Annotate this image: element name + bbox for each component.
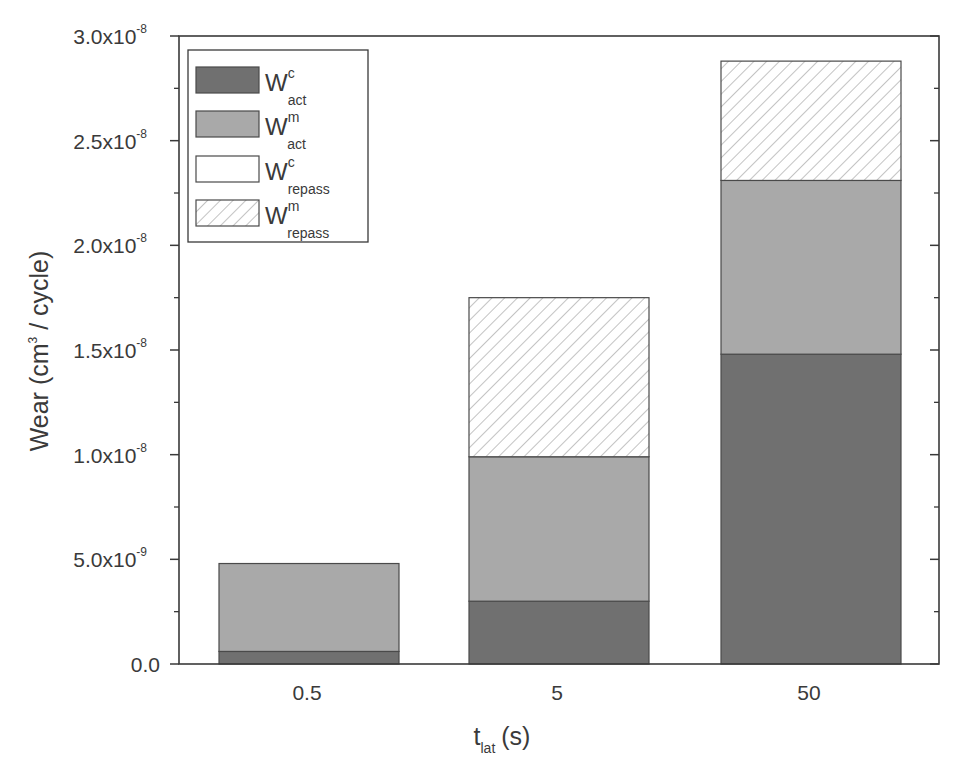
bar-segment-0_5-series-1 bbox=[219, 564, 399, 652]
y-tick-label: 1.5x10-8 bbox=[73, 336, 147, 362]
x-axis-ticks: 0.5550 bbox=[292, 681, 820, 704]
bar-segment-50-series-0 bbox=[721, 354, 901, 664]
stacked-bar-chart: 0.05.0x10-91.0x10-81.5x10-82.0x10-82.5x1… bbox=[0, 0, 973, 775]
y-tick-label: 2.0x10-8 bbox=[73, 231, 147, 257]
x-tick-label: 0.5 bbox=[292, 681, 321, 704]
x-tick-label: 50 bbox=[797, 681, 820, 704]
bar-segment-50-series-3 bbox=[721, 61, 901, 180]
y-axis-title: Wear (cm3 / cycle) bbox=[25, 251, 53, 452]
x-tick-label: 5 bbox=[551, 681, 563, 704]
y-tick-label: 1.0x10-8 bbox=[73, 441, 147, 467]
legend-swatch-0 bbox=[196, 67, 259, 93]
y-tick-label: 5.0x10-9 bbox=[73, 545, 147, 571]
legend-swatch-3 bbox=[196, 200, 259, 226]
bar-segment-50-series-1 bbox=[721, 180, 901, 354]
legend: WcactWmactWcrepassWmrepass bbox=[188, 50, 368, 242]
bar-segment-5-series-3 bbox=[469, 298, 649, 457]
bar-segment-5-series-1 bbox=[469, 457, 649, 601]
y-tick-label: 0.0 bbox=[131, 653, 160, 676]
y-tick-label: 2.5x10-8 bbox=[73, 127, 147, 153]
x-axis-title: tlat(s) bbox=[474, 722, 531, 756]
legend-swatch-1 bbox=[196, 111, 259, 137]
bar-segment-5-series-0 bbox=[469, 601, 649, 664]
bar-segment-0_5-series-0 bbox=[219, 651, 399, 664]
y-tick-label: 3.0x10-8 bbox=[73, 22, 147, 48]
legend-swatch-2 bbox=[196, 156, 259, 182]
